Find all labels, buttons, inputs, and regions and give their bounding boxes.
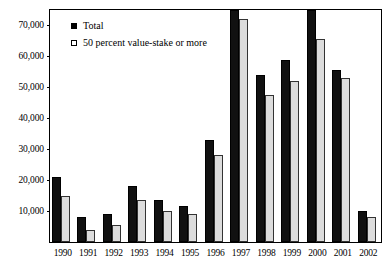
legend-item-0: Total bbox=[71, 18, 281, 33]
bar-total-1992 bbox=[103, 214, 112, 242]
legend-item-label: Total bbox=[83, 20, 103, 31]
bar-stake-1995 bbox=[188, 214, 197, 242]
bar-group-2000 bbox=[305, 10, 330, 242]
bar-stake-1994 bbox=[163, 211, 172, 242]
y-axis-tick-label: 40,000 bbox=[0, 113, 44, 123]
bar-total-1991 bbox=[77, 217, 86, 242]
bar-total-1990 bbox=[52, 177, 61, 242]
bar-stake-2001 bbox=[341, 78, 350, 242]
open-square-icon bbox=[71, 40, 77, 46]
bar-total-1999 bbox=[281, 60, 290, 243]
bar-total-1994 bbox=[154, 200, 163, 242]
y-axis-tick-label: 50,000 bbox=[0, 82, 44, 92]
bar-chart: 10,00020,00030,00040,00050,00060,00070,0… bbox=[0, 0, 390, 278]
bar-group-2002 bbox=[356, 10, 381, 242]
bar-group-2001 bbox=[330, 10, 355, 242]
y-axis-tick-label: 10,000 bbox=[0, 206, 44, 216]
bar-total-1993 bbox=[128, 186, 137, 242]
bar-total-1998 bbox=[256, 75, 265, 242]
bar-stake-1999 bbox=[290, 81, 299, 242]
bar-stake-2000 bbox=[316, 39, 325, 242]
bar-stake-1998 bbox=[265, 95, 274, 242]
bar-total-1995 bbox=[179, 206, 188, 242]
y-axis: 10,00020,00030,00040,00050,00060,00070,0… bbox=[0, 0, 44, 278]
filled-square-icon bbox=[71, 23, 77, 29]
y-axis-tick-label: 20,000 bbox=[0, 175, 44, 185]
bar-total-2001 bbox=[332, 70, 341, 242]
bar-group-1999 bbox=[279, 10, 304, 242]
bar-stake-1991 bbox=[86, 230, 95, 242]
bar-total-2000 bbox=[307, 10, 316, 242]
x-axis: 1990199119921993199419951996199719981999… bbox=[50, 247, 381, 263]
bar-stake-1992 bbox=[112, 225, 121, 242]
y-axis-tick-label: 70,000 bbox=[0, 20, 44, 30]
bar-total-2002 bbox=[358, 211, 367, 242]
bar-stake-2002 bbox=[367, 217, 376, 242]
y-axis-tick-label: 60,000 bbox=[0, 51, 44, 61]
bar-stake-1990 bbox=[61, 196, 70, 242]
bar-stake-1996 bbox=[214, 155, 223, 242]
chart-legend: Total50 percent value-stake or more bbox=[71, 18, 281, 52]
bar-stake-1993 bbox=[137, 200, 146, 242]
y-axis-tick-label: 30,000 bbox=[0, 144, 44, 154]
legend-item-1: 50 percent value-stake or more bbox=[71, 35, 281, 50]
bar-stake-1997 bbox=[239, 19, 248, 242]
bar-total-1996 bbox=[205, 140, 214, 242]
legend-item-label: 50 percent value-stake or more bbox=[83, 37, 207, 48]
x-axis-tick-label-2002: 2002 bbox=[351, 247, 385, 259]
